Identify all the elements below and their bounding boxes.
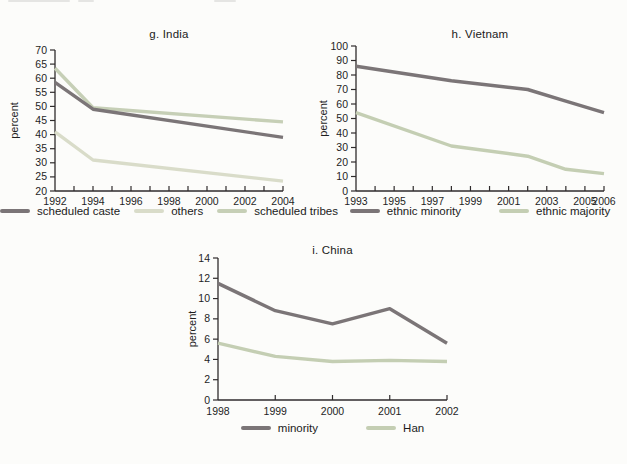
scheduled-tribes-line [55,68,283,122]
legend-item-ethnic-minority: ethnic minority [350,205,461,217]
y-tick-label: 35 [35,142,47,154]
scan-artifact [8,0,70,2]
y-tick-label: 65 [35,58,47,70]
y-tick-label: 100 [330,40,348,52]
y-tick-label: 30 [336,141,348,153]
x-tick-label: 2002 [435,405,459,417]
y-tick-label: 40 [336,127,348,139]
y-tick-label: 50 [35,100,47,112]
legend-item-han: Han [366,422,424,434]
y-tick-label: 55 [35,86,47,98]
y-tick-label: 8 [204,312,210,324]
y-tick-label: 10 [336,170,348,182]
y-tick-label: 10 [198,292,210,304]
others-line [55,132,283,181]
scheduled-caste-line-swatch [0,209,30,213]
figure-page: g. India 2025303540455055606570199219941… [0,0,627,464]
x-tick-label: 1999 [264,405,288,417]
legend-label: scheduled caste [37,205,120,217]
y-tick-label: 70 [35,44,47,56]
china-chart-canvas: 0246810121419981999200020012002percent [160,250,460,426]
scheduled-tribes-line-swatch [217,209,247,213]
minority-line [218,283,447,343]
china-chart: i. China 0246810121419981999200020012002… [160,238,460,462]
china-legend: minority Han [218,422,447,434]
y-tick-label: 45 [35,114,47,126]
legend-label: Han [403,422,424,434]
x-tick-label: 2001 [378,405,402,417]
y-axis-title: percent [318,100,329,137]
y-tick-label: 40 [35,128,47,140]
y-tick-label: 60 [336,98,348,110]
y-tick-label: 60 [35,72,47,84]
legend-item-others: others [134,205,203,217]
legend-label: minority [278,422,318,434]
legend-item-minority: minority [241,422,318,434]
y-tick-label: 80 [336,69,348,81]
y-tick-label: 2 [204,373,210,385]
y-axis-title: percent [186,311,198,348]
india-legend: scheduled caste others scheduled tribes [55,205,283,217]
legend-label: ethnic majority [536,205,610,217]
Han-line [218,343,447,361]
y-tick-label: 12 [198,272,210,284]
scan-artifact [78,0,94,2]
ethnic-minority-line-swatch [350,209,380,213]
y-tick-label: 50 [336,112,348,124]
scheduled-caste-line [55,82,283,137]
legend-label: ethnic minority [387,205,461,217]
y-tick-label: 6 [204,333,210,345]
legend-item-scheduled-caste: scheduled caste [0,205,120,217]
x-tick-label: 2000 [321,405,345,417]
y-axis-title: percent [8,102,20,139]
y-tick-label: 25 [35,170,47,182]
vietnam-chart-canvas: 0102030405060708090100199319951997199920… [318,34,622,210]
y-tick-label: 14 [198,252,210,264]
y-tick-label: 90 [336,54,348,66]
scan-artifact [214,0,236,2]
y-tick-label: 20 [336,156,348,168]
vietnam-legend: ethnic minority ethnic majority [356,205,604,217]
y-tick-label: 70 [336,83,348,95]
x-tick-label: 1998 [206,405,230,417]
minority-line-swatch [241,426,271,430]
han-line-swatch [366,426,396,430]
legend-item-ethnic-majority: ethnic majority [499,205,610,217]
y-tick-label: 30 [35,156,47,168]
india-chart-canvas: 2025303540455055606570199219941996199820… [8,34,304,210]
y-tick-label: 4 [204,353,210,365]
india-chart: g. India 2025303540455055606570199219941… [8,8,304,226]
ethnic-majority-line-swatch [499,209,529,213]
ethnic-majority-line [356,113,604,174]
others-line-swatch [134,209,164,213]
y-tick-label: 0 [204,394,210,406]
vietnam-chart: h. Vietnam 01020304050607080901001993199… [318,8,622,226]
legend-label: others [171,205,203,217]
ethnic-minority-line [356,66,604,112]
